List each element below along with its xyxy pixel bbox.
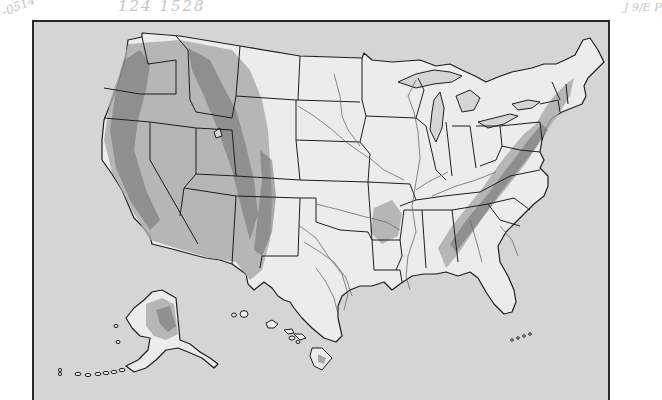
contiguous-us	[102, 33, 604, 342]
florida-keys	[511, 333, 532, 341]
aleutian-islands	[58, 324, 125, 376]
alaska	[126, 290, 218, 372]
